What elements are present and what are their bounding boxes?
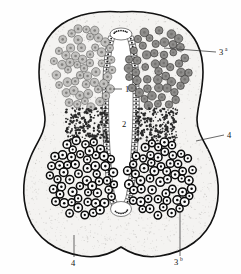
label-3a-superscript: a (225, 46, 228, 52)
figure-root: 1 2 3 a 3 b 4 4 (0, 0, 241, 274)
cross-section-diagram: 1 2 3 a 3 b 4 4 (0, 0, 241, 274)
label-2-lumen: 2 (122, 119, 126, 129)
label-3a-upper-cluster: 3 (219, 47, 223, 57)
label-1-epithelium: 1 (125, 84, 129, 94)
label-4-capsule-right: 4 (227, 130, 232, 140)
label-4-capsule-bottom: 4 (71, 258, 76, 268)
label-3b-lower-cluster: 3 (174, 257, 178, 267)
label-3b-superscript: b (180, 256, 183, 262)
